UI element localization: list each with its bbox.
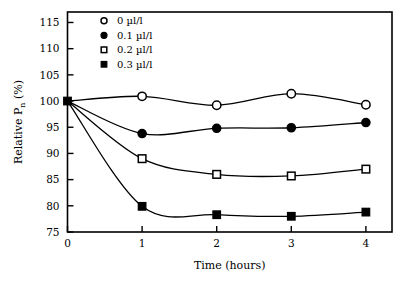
x-tick-label-2: 2	[213, 237, 220, 249]
x-tick-label-3: 3	[288, 237, 295, 249]
data-point-s1-t2	[212, 124, 220, 132]
legend-marker-0	[101, 18, 107, 24]
x-tick-label-1: 1	[139, 237, 146, 249]
legend-label-2: 0.2 µl/l	[117, 44, 152, 55]
chart-background	[0, 0, 414, 286]
data-point-s3-t4	[362, 208, 370, 216]
data-point-s2-t3	[287, 172, 295, 180]
data-point-s0-t1	[138, 92, 146, 100]
x-axis-title: Time (hours)	[194, 259, 266, 272]
data-point-s2-t1	[138, 155, 146, 163]
y-tick-label-6: 105	[39, 69, 59, 81]
data-point-s3-t3	[287, 212, 295, 220]
data-point-s0-t2	[212, 101, 220, 109]
y-tick-label-5: 100	[39, 95, 59, 107]
x-tick-label-4: 4	[363, 237, 370, 249]
relative-pn-vs-time-line-chart: 01234 7580859095100105110115 0 µl/l0.1 µ…	[0, 0, 414, 286]
data-point-s1-t1	[138, 129, 146, 137]
legend-label-3: 0.3 µl/l	[117, 59, 152, 70]
legend-marker-1	[101, 32, 107, 38]
y-tick-label-2: 85	[46, 173, 59, 185]
data-point-s1-t3	[287, 124, 295, 132]
legend-label-0: 0 µl/l	[117, 15, 143, 26]
data-point-origin	[64, 97, 72, 105]
legend-marker-2	[101, 47, 107, 53]
y-tick-label-7: 110	[39, 42, 59, 54]
data-point-s3-t1	[138, 203, 146, 211]
data-point-s0-t3	[287, 90, 295, 98]
legend-marker-3	[101, 62, 107, 68]
data-point-s2-t2	[213, 171, 221, 179]
chart-figure: 01234 7580859095100105110115 0 µl/l0.1 µ…	[0, 0, 414, 286]
x-tick-label-0: 0	[64, 237, 71, 249]
legend-label-1: 0.1 µl/l	[117, 30, 152, 41]
data-point-s2-t4	[362, 165, 370, 173]
data-point-s1-t4	[362, 118, 370, 126]
y-axis-title: Relative Pn (%)	[12, 80, 27, 164]
y-tick-label-8: 115	[39, 16, 59, 28]
data-point-s3-t2	[213, 211, 221, 219]
y-tick-label-4: 95	[46, 121, 59, 133]
y-tick-label-3: 90	[46, 147, 59, 159]
y-tick-label-0: 75	[46, 226, 59, 238]
data-point-s0-t4	[362, 101, 370, 109]
y-tick-label-1: 80	[46, 200, 59, 212]
